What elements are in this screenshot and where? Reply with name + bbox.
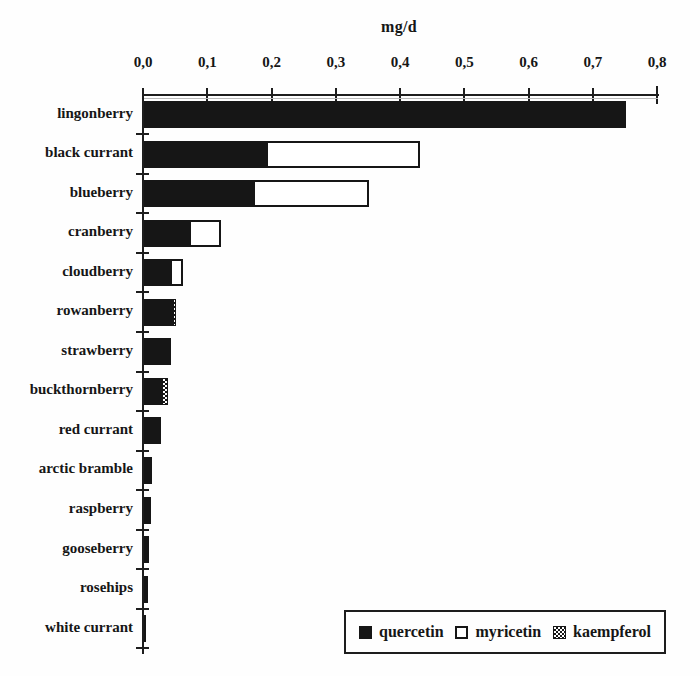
bar-segment-myricetin <box>144 576 148 603</box>
bar-segment-quercetin <box>144 536 149 563</box>
legend-entry-kaempferol: kaempferol <box>553 623 651 641</box>
bar-segment-quercetin <box>144 497 151 524</box>
legend-label: quercetin <box>379 623 444 641</box>
x-axis-line <box>142 94 659 96</box>
x-tick-label: 0,5 <box>442 54 486 71</box>
y-tick-mark <box>136 291 149 293</box>
bar-segment-kaempferol <box>173 299 176 326</box>
bar-segment-quercetin <box>144 615 146 642</box>
bar-segment-quercetin <box>144 338 171 365</box>
legend-entry-quercetin: quercetin <box>359 623 444 641</box>
category-label: arctic bramble <box>0 460 133 477</box>
bar-segment-quercetin <box>144 220 189 247</box>
category-label: raspberry <box>0 500 133 517</box>
y-tick-mark <box>136 529 149 531</box>
y-tick-mark <box>136 608 149 610</box>
y-tick-mark <box>136 212 149 214</box>
category-label: rosehips <box>0 579 133 596</box>
legend-label: myricetin <box>475 623 541 641</box>
bar-segment-quercetin <box>144 299 173 326</box>
x-tick-label: 0,7 <box>571 54 615 71</box>
flavonol-intake-bar-chart: mg/d 0,00,10,20,30,40,50,60,70,8 lingonb… <box>0 0 700 676</box>
bar-segment-quercetin <box>144 259 170 286</box>
quercetin-swatch-icon <box>359 626 372 639</box>
category-label: blueberry <box>0 184 133 201</box>
bar-segment-quercetin <box>144 180 253 207</box>
bar-segment-myricetin <box>170 259 183 286</box>
bar-segment-quercetin <box>144 378 162 405</box>
y-tick-mark <box>136 450 149 452</box>
y-tick-mark <box>136 252 149 254</box>
x-tick-label: 0,2 <box>250 54 294 71</box>
x-tick-label: 0,4 <box>378 54 422 71</box>
category-label: red currant <box>0 421 133 438</box>
category-label: strawberry <box>0 342 133 359</box>
kaempferol-swatch-icon <box>553 626 566 639</box>
bar-segment-quercetin <box>144 141 266 168</box>
category-label: lingonberry <box>0 105 133 122</box>
y-tick-mark <box>136 568 149 570</box>
bar-segment-myricetin <box>189 220 221 247</box>
category-label: cloudberry <box>0 263 133 280</box>
x-axis-title: mg/d <box>349 18 449 36</box>
legend: quercetinmyricetinkaempferol <box>344 610 666 654</box>
category-label: buckthornberry <box>0 381 133 398</box>
x-tick-label: 0,6 <box>507 54 551 71</box>
x-tick-label: 0,0 <box>121 54 165 71</box>
x-axis-line-shadow <box>143 98 658 99</box>
legend-label: kaempferol <box>573 623 651 641</box>
category-label: rowanberry <box>0 302 133 319</box>
y-tick-mark <box>136 173 149 175</box>
y-tick-mark <box>136 489 149 491</box>
y-tick-mark <box>136 647 149 649</box>
x-tick-label: 0,8 <box>635 54 679 71</box>
category-label: gooseberry <box>0 540 133 557</box>
bar-segment-kaempferol <box>162 378 168 405</box>
bar-segment-quercetin <box>144 101 626 128</box>
y-tick-mark <box>136 133 149 135</box>
y-tick-mark <box>136 371 149 373</box>
legend-entry-myricetin: myricetin <box>455 623 541 641</box>
bar-segment-quercetin <box>144 417 161 444</box>
bar-segment-myricetin <box>253 180 369 207</box>
y-tick-mark <box>136 410 149 412</box>
x-tick-label: 0,3 <box>314 54 358 71</box>
y-tick-mark <box>136 331 149 333</box>
category-label: cranberry <box>0 223 133 240</box>
x-tick-label: 0,1 <box>185 54 229 71</box>
category-label: black currant <box>0 144 133 161</box>
category-label: white currant <box>0 619 133 636</box>
bar-segment-myricetin <box>266 141 420 168</box>
bar-segment-quercetin <box>144 457 152 484</box>
myricetin-swatch-icon <box>455 626 468 639</box>
